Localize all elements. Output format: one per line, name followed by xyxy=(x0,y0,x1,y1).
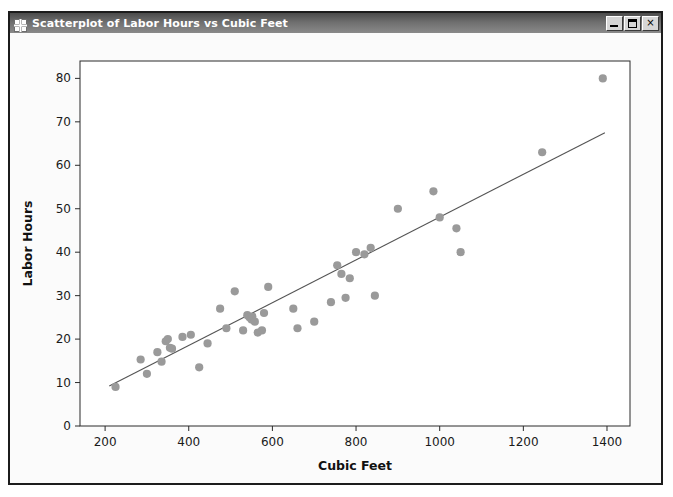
maximize-icon xyxy=(628,19,637,28)
data-point xyxy=(137,355,145,363)
y-axis-title: Labor Hours xyxy=(20,200,35,286)
y-tick-label: 50 xyxy=(56,202,71,216)
data-point xyxy=(203,339,211,347)
data-point xyxy=(346,274,354,282)
data-point xyxy=(260,309,268,317)
close-icon: × xyxy=(643,17,658,30)
x-tick-label: 800 xyxy=(345,435,368,449)
data-point xyxy=(231,287,239,295)
data-point xyxy=(429,187,437,195)
data-point xyxy=(251,318,259,326)
data-point xyxy=(310,318,318,326)
x-axis: 200400600800100012001400 xyxy=(94,426,623,449)
x-axis-title: Cubic Feet xyxy=(318,458,392,473)
data-point xyxy=(360,250,368,258)
data-point xyxy=(341,294,349,302)
data-point xyxy=(143,370,151,378)
plot-canvas: 0102030405060708020040060080010001200140… xyxy=(10,33,661,485)
x-tick-label: 200 xyxy=(94,435,117,449)
window-titlebar[interactable]: Scatterplot of Labor Hours vs Cubic Feet… xyxy=(10,13,661,33)
close-button[interactable]: × xyxy=(642,16,659,31)
data-point xyxy=(599,74,607,82)
data-point xyxy=(178,333,186,341)
x-tick-label: 1000 xyxy=(424,435,455,449)
data-point xyxy=(337,270,345,278)
data-point xyxy=(289,305,297,313)
data-point xyxy=(153,348,161,356)
scatter-chart: Scatter Plot of Labor Hours and Cubic Fe… xyxy=(10,33,661,483)
data-point xyxy=(293,324,301,332)
data-point xyxy=(222,324,230,332)
data-point xyxy=(538,148,546,156)
window-controls: × xyxy=(606,16,659,31)
data-point xyxy=(327,298,335,306)
y-tick-label: 10 xyxy=(56,376,71,390)
application-window: Scatterplot of Labor Hours vs Cubic Feet… xyxy=(8,11,663,485)
data-point xyxy=(111,383,119,391)
data-point xyxy=(457,248,465,256)
data-point xyxy=(452,224,460,232)
minimize-icon xyxy=(610,25,618,27)
plot-frame xyxy=(80,61,630,426)
data-point xyxy=(258,326,266,334)
data-point xyxy=(394,205,402,213)
y-tick-label: 0 xyxy=(63,419,71,433)
y-tick-label: 20 xyxy=(56,332,71,346)
data-point xyxy=(436,213,444,221)
y-tick-label: 30 xyxy=(56,289,71,303)
y-tick-label: 80 xyxy=(56,71,71,85)
minimize-button[interactable] xyxy=(606,16,623,31)
data-point xyxy=(367,244,375,252)
y-tick-label: 40 xyxy=(56,245,71,259)
data-point xyxy=(195,363,203,371)
data-point xyxy=(216,305,224,313)
data-point xyxy=(264,283,272,291)
data-point xyxy=(164,335,172,343)
y-axis: 01020304050607080 xyxy=(56,71,80,433)
data-point xyxy=(371,292,379,300)
y-tick-label: 70 xyxy=(56,115,71,129)
maximize-button[interactable] xyxy=(624,16,641,31)
data-point xyxy=(157,358,165,366)
data-point xyxy=(187,331,195,339)
window-title: Scatterplot of Labor Hours vs Cubic Feet xyxy=(32,17,606,30)
data-point xyxy=(352,248,360,256)
window-client-area: Scatter Plot of Labor Hours and Cubic Fe… xyxy=(10,33,661,483)
x-tick-label: 1400 xyxy=(592,435,623,449)
data-point xyxy=(239,326,247,334)
data-point xyxy=(168,345,176,353)
grid-icon xyxy=(14,17,27,30)
y-tick-label: 60 xyxy=(56,158,71,172)
data-point xyxy=(333,261,341,269)
x-tick-label: 1200 xyxy=(508,435,539,449)
x-tick-label: 400 xyxy=(177,435,200,449)
x-tick-label: 600 xyxy=(261,435,284,449)
